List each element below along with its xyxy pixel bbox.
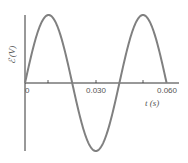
emf-chart: 0 0.030 0.060 t (s) ℰ (V): [0, 0, 188, 163]
x-axis-label: t (s): [145, 98, 159, 108]
x-tick-label-0: 0: [25, 86, 30, 95]
x-tick-label-0030: 0.030: [86, 86, 107, 95]
x-tick-label-0060: 0.060: [157, 86, 178, 95]
y-axis-label: ℰ (V): [7, 46, 17, 65]
